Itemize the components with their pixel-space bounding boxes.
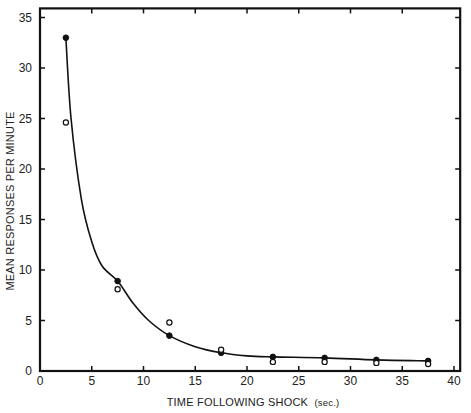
y-axis-ticks: 05101520253035 — [19, 11, 461, 379]
data-points — [63, 35, 431, 367]
fit-curve — [66, 38, 428, 361]
x-tick-label: 10 — [137, 374, 151, 388]
y-tick-label: 10 — [19, 263, 33, 277]
x-tick-label: 35 — [396, 374, 410, 388]
open-data-point — [219, 347, 224, 352]
filled-data-point — [63, 35, 69, 41]
open-data-point — [322, 359, 327, 364]
y-tick-label: 0 — [25, 364, 32, 378]
open-data-point — [270, 359, 275, 364]
x-tick-label: 15 — [189, 374, 203, 388]
open-data-point — [374, 360, 379, 365]
y-tick-label: 15 — [19, 213, 33, 227]
open-data-point — [115, 287, 120, 292]
x-axis-ticks: 0510152025303540 — [37, 8, 461, 388]
open-data-point — [426, 361, 431, 366]
x-axis-unit: (sec.) — [314, 397, 339, 408]
y-tick-label: 20 — [19, 162, 33, 176]
x-axis-title: TIME FOLLOWING SHOCK (sec.) — [167, 396, 340, 408]
x-tick-label: 25 — [292, 374, 306, 388]
filled-data-point — [167, 333, 173, 339]
y-tick-label: 25 — [19, 112, 33, 126]
x-tick-label: 40 — [447, 374, 461, 388]
y-tick-label: 35 — [19, 11, 33, 25]
plot-frame — [40, 8, 460, 371]
y-axis-title: MEAN RESPONSES PER MINUTE — [4, 111, 16, 290]
plot-border — [40, 8, 460, 371]
x-tick-label: 5 — [88, 374, 95, 388]
y-tick-label: 5 — [25, 314, 32, 328]
open-data-point — [167, 320, 172, 325]
x-tick-label: 30 — [344, 374, 358, 388]
y-tick-label: 30 — [19, 61, 33, 75]
x-axis-label: TIME FOLLOWING SHOCK — [167, 396, 309, 408]
open-data-point — [63, 120, 68, 125]
x-tick-label: 0 — [37, 374, 44, 388]
x-tick-label: 20 — [240, 374, 254, 388]
chart-canvas: 0510152025303540 05101520253035 TIME FOL… — [0, 0, 471, 413]
filled-data-point — [115, 278, 121, 284]
